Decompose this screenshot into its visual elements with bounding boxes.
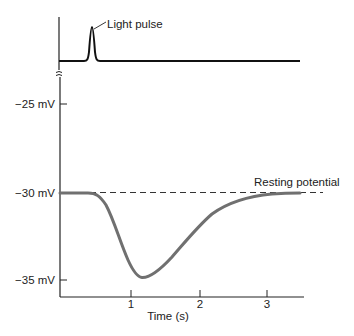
y-tick-label-neg25: −25 mV [15,98,55,110]
y-tick-label-neg30: −30 mV [15,187,55,199]
x-tick-label-3: 3 [264,298,270,310]
x-axis-label: Time (s) [147,310,189,322]
y-tick-label-neg35: −35 mV [15,274,55,286]
light-pulse-leader-line [94,22,106,29]
light-pulse-trace [59,27,300,61]
x-tick-label-2: 2 [197,298,203,310]
x-tick-label-1: 1 [128,298,134,310]
stimulus-panel: Light pulse [59,17,300,70]
response-panel: −25 mV −30 mV −35 mV 1 2 3 Time (s) Rest… [15,77,340,322]
light-pulse-label: Light pulse [107,18,163,30]
axis-break-icon [56,72,62,76]
resting-potential-label: Resting potential [254,176,340,188]
membrane-potential-curve [60,193,300,278]
chart: Light pulse −25 mV −30 mV −35 mV 1 2 3 T… [0,0,354,336]
